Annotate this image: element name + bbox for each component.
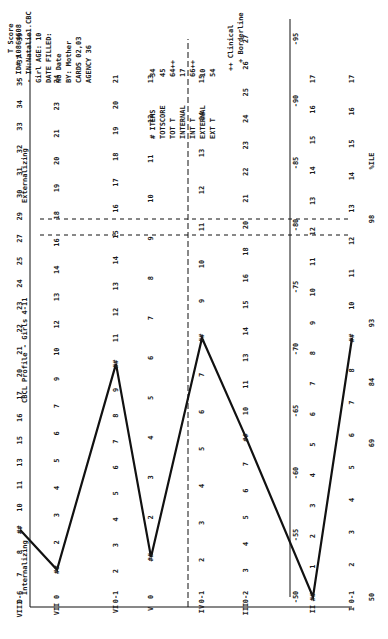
scale-value: 5 [243, 515, 250, 519]
scale-value: 21 [243, 194, 250, 202]
filled-by: BY: Mother [66, 41, 73, 83]
scale-value: 10 [310, 288, 317, 296]
column-label-vi: VI [113, 605, 120, 613]
score-marker: ## [54, 566, 61, 574]
scale-value: 12 [310, 227, 317, 235]
scale-value: 2 [349, 563, 356, 567]
scale-value: 4 [243, 542, 250, 546]
scale-value: 15 [243, 301, 250, 309]
summary-row: # ITEMS34 [150, 69, 157, 139]
input-file: - IN:Natalie1.CBC [26, 11, 33, 83]
scale-value: 21 [54, 129, 61, 137]
scale-value: 18 [54, 211, 61, 219]
scale-value: 0 [54, 595, 61, 599]
scale-value: 9 [310, 321, 317, 325]
scale-value: 7 [349, 401, 356, 405]
scale-value: 33 [17, 122, 24, 130]
scale-value: 0-1 [113, 591, 120, 604]
t-score-tick: -70 [293, 343, 300, 356]
scale-value: 16 [349, 107, 356, 115]
scale-value: 25 [17, 257, 24, 265]
scale-value: 2 [199, 558, 206, 562]
scale-value: 29 [17, 212, 24, 220]
t-score-tick: -75 [293, 281, 300, 294]
scale-value: 10 [17, 503, 24, 511]
t-score-tick: -60 [293, 467, 300, 480]
scale-value: 6 [113, 465, 120, 469]
summary-value: 45 [159, 69, 167, 77]
scale-value: 2 [113, 569, 120, 573]
column-label-ii: II [310, 605, 317, 613]
scale-value: 5 [113, 491, 120, 495]
scale-value: 10 [148, 194, 155, 202]
scale-value: 3 [243, 568, 250, 572]
percentile-tick: 93 [369, 319, 376, 327]
no-date: No Date [56, 53, 63, 83]
scale-value: 10 [199, 260, 206, 268]
column-label-iv: IV [199, 605, 206, 613]
scale-value: 16 [243, 274, 250, 282]
score-marker: ## [243, 433, 250, 441]
scale-value: 12 [113, 308, 120, 316]
t-score-label: T Score [8, 23, 15, 53]
scale-value: 17 [113, 178, 120, 186]
t-score-tick: -50 [293, 591, 300, 604]
scale-value: 4 [199, 484, 206, 488]
scale-value: 7 [54, 404, 61, 408]
scale-value: 7 [113, 440, 120, 444]
scale-value: 4 [148, 436, 155, 440]
scale-value: 16 [113, 204, 120, 212]
summary-value: 54 [209, 69, 217, 77]
scale-value: 7 [243, 462, 250, 466]
scale-value: 20 [243, 221, 250, 229]
scale-value: 2 [54, 540, 61, 544]
scale-value: 13 [310, 197, 317, 205]
column-label-i: I [349, 607, 356, 611]
cbcl-profile-chart: 1716151413121110##87654320-1171615141312… [0, 0, 388, 639]
internalizing-label: Internalizing [22, 540, 29, 595]
scale-value: 11 [113, 334, 120, 342]
date-filled: DATE FILLED: [46, 32, 53, 83]
column-label-viii: VIII [17, 601, 24, 618]
scale-value: 9 [54, 377, 61, 381]
summary-row: INT T66++ [190, 60, 197, 139]
scale-value: 7 [310, 382, 317, 386]
column-label-v: V [148, 607, 155, 611]
scale-value: 0-1 [199, 591, 206, 604]
scale-value: 11 [148, 154, 155, 162]
scale-value: 19 [113, 127, 120, 135]
score-marker: ## [349, 334, 356, 342]
summary-label: TOT T [170, 77, 177, 139]
scale-value: 13 [113, 282, 120, 290]
scale-value: 13 [243, 354, 250, 362]
scale-value: 4 [349, 498, 356, 502]
scale-value: 27 [17, 234, 24, 242]
score-marker: ## [148, 553, 155, 561]
legend-clinical: ++ Clinical [228, 25, 235, 71]
scale-value: 13 [54, 293, 61, 301]
scale-value: 9 [199, 299, 206, 303]
scale-value: 3 [148, 475, 155, 479]
legend-borderline: + Borderline [238, 12, 245, 63]
summary-label: TOTSCORE [160, 77, 167, 139]
scale-value: 25 [243, 88, 250, 96]
scale-value: 14 [243, 327, 250, 335]
scale-value: 8 [349, 368, 356, 372]
score-marker: ## [17, 526, 24, 534]
percentile-tick: 98 [369, 215, 376, 223]
scale-value: 11 [349, 269, 356, 277]
summary-value: 64++ [169, 60, 177, 77]
scale-value: 34 [17, 100, 24, 108]
scale-value: 16 [310, 105, 317, 113]
percentile-tick: 69 [369, 439, 376, 447]
cards: CARDS 02,03 [76, 37, 83, 83]
scale-value: 0-1 [349, 591, 356, 604]
scale-value: 15 [349, 140, 356, 148]
t-score-tick: -55 [293, 529, 300, 542]
scale-value: 10 [243, 407, 250, 415]
scale-value: 7 [199, 373, 206, 377]
scale-value: 14 [54, 266, 61, 274]
scale-value: 19 [54, 184, 61, 192]
scale-value: 6 [349, 433, 356, 437]
scale-value: 8 [148, 276, 155, 280]
